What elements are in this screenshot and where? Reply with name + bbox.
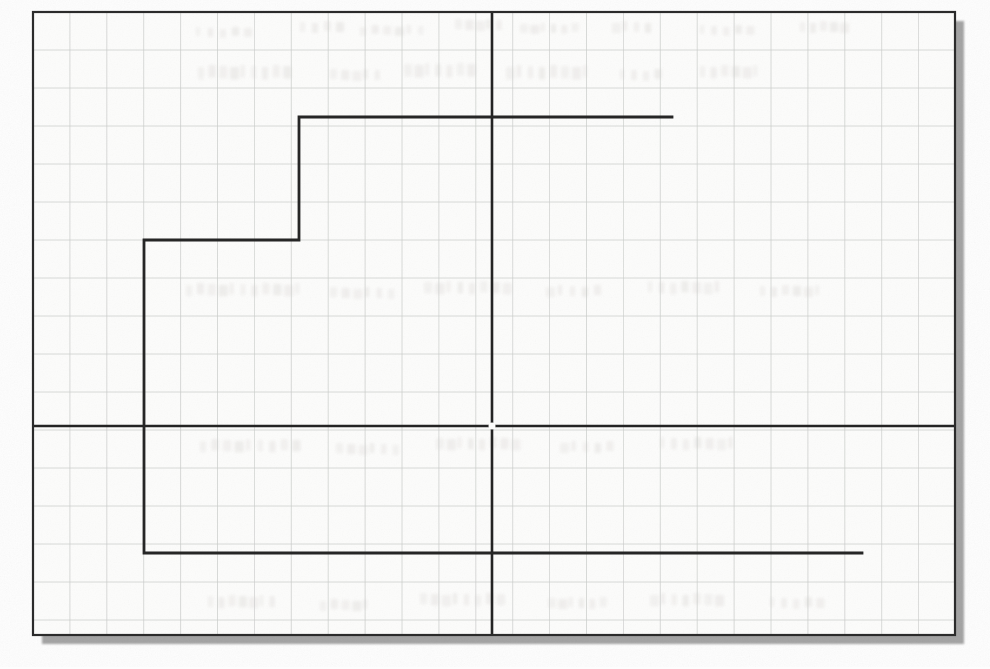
- origin-marker: [489, 423, 496, 430]
- graph-paper-figure: [0, 0, 990, 669]
- scanned-page-canvas: Hand-drawn step function on graph paper …: [0, 0, 990, 669]
- graph-paper-sheet: [33, 12, 955, 635]
